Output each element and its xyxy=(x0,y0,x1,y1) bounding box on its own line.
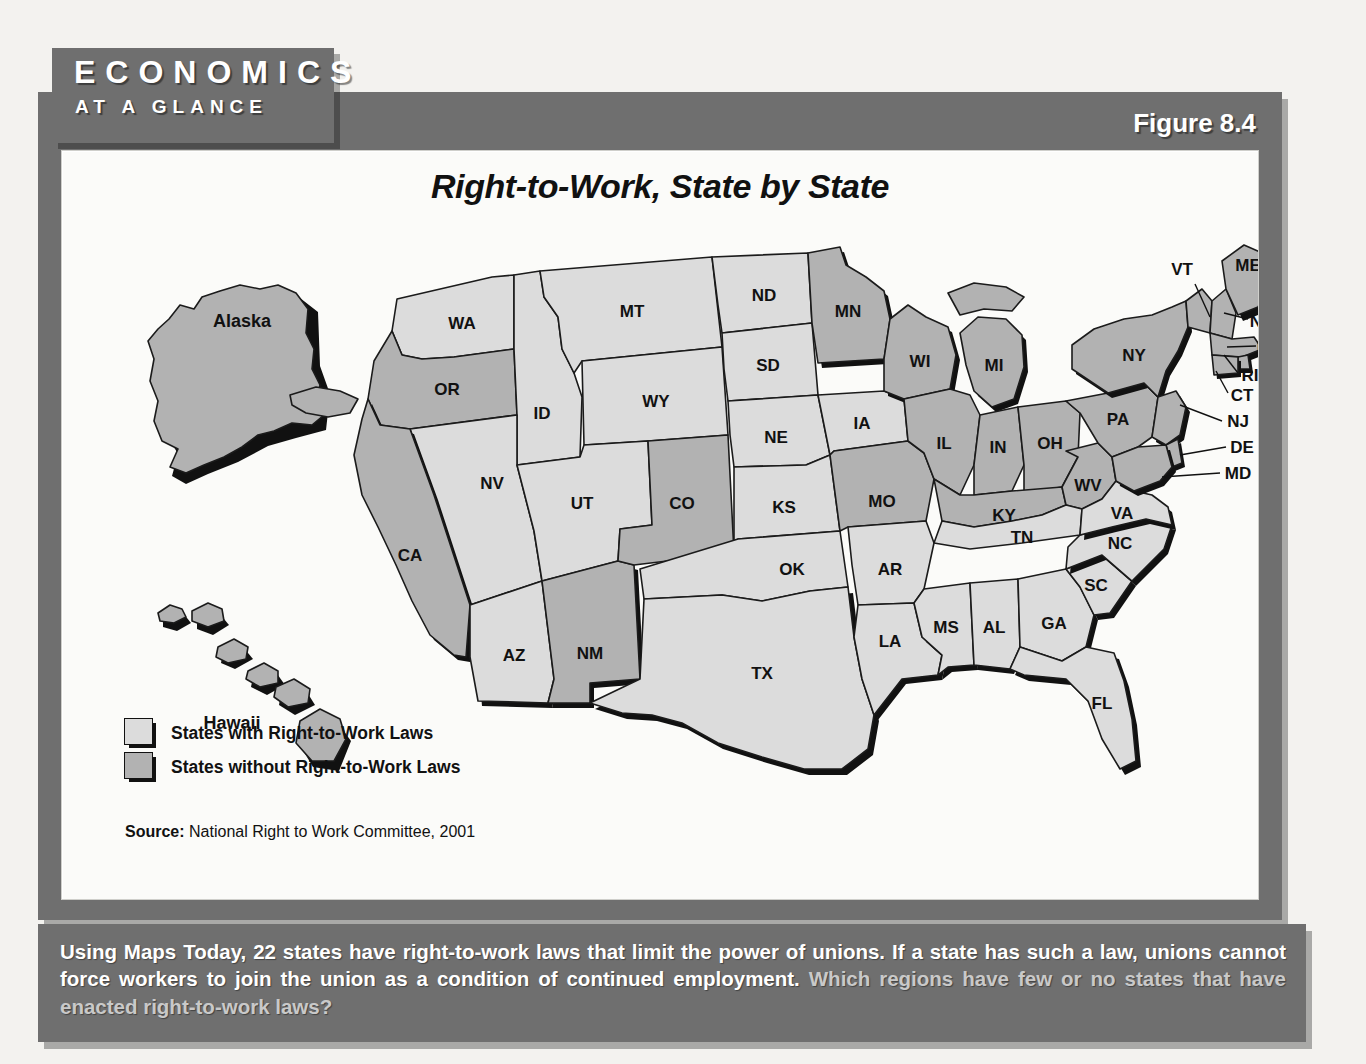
map-label-ca: CA xyxy=(398,546,423,565)
map-label-mi: MI xyxy=(985,356,1004,375)
map-label-sc: SC xyxy=(1084,576,1108,595)
map-label-tn: TN xyxy=(1011,528,1034,547)
caption-label: Using Maps xyxy=(60,940,176,963)
map-label-wv: WV xyxy=(1074,476,1102,495)
legend-swatch-with-rtw xyxy=(124,718,157,749)
map-label-il: IL xyxy=(936,434,951,453)
state-vermont xyxy=(1186,289,1212,333)
map-label-me: ME xyxy=(1235,256,1258,275)
map-label-ga: GA xyxy=(1041,614,1067,633)
map-label-de: DE xyxy=(1230,438,1254,457)
map-label-id: ID xyxy=(534,404,551,423)
map-label-ut: UT xyxy=(571,494,594,513)
map-label-ny: NY xyxy=(1122,346,1146,365)
state-northdakota: ND xyxy=(712,253,812,333)
map-label-oh: OH xyxy=(1037,434,1063,453)
legend-label-without-rtw: States without Right-to-Work Laws xyxy=(171,757,460,778)
map-label-pa: PA xyxy=(1107,410,1129,429)
map-label-la: LA xyxy=(879,632,902,651)
map-panel: Right-to-Work, State by State Alaska xyxy=(61,150,1259,900)
state-alaska: Alaska xyxy=(148,285,358,484)
map-label-vt: VT xyxy=(1171,260,1193,279)
map-label-mo: MO xyxy=(868,492,895,511)
legend-item-without-rtw: States without Right-to-Work Laws xyxy=(124,750,460,784)
map-label-wi: WI xyxy=(910,352,931,371)
map-label-co: CO xyxy=(669,494,695,513)
map-label-or: OR xyxy=(434,380,460,399)
caption-text: Using Maps Today, 22 states have right-t… xyxy=(38,924,1306,1020)
legend-swatch-without-rtw xyxy=(124,752,157,783)
map-label-ct: CT xyxy=(1231,386,1254,405)
map-label-nh: NH xyxy=(1250,312,1258,331)
state-newyork: NY xyxy=(1072,301,1192,402)
state-newjersey xyxy=(1152,391,1190,450)
map-label-tx: TX xyxy=(751,664,773,683)
legend-label-with-rtw: States with Right-to-Work Laws xyxy=(171,723,433,744)
map-title: Right-to-Work, State by State xyxy=(62,167,1258,206)
map-label-ok: OK xyxy=(779,560,805,579)
state-minnesota: MN xyxy=(808,247,894,368)
figure-root: Figure 8.4 Right-to-Work, State by State… xyxy=(0,0,1366,1064)
map-label-fl: FL xyxy=(1092,694,1113,713)
map-label-az: AZ xyxy=(503,646,526,665)
map-label-wa: WA xyxy=(448,314,475,333)
state-nebraska: NE xyxy=(728,395,830,467)
map-label-nc: NC xyxy=(1108,534,1133,553)
figure-number-label: Figure 8.4 xyxy=(1133,108,1256,139)
map-label-ma: MA xyxy=(1257,338,1258,357)
brand-title: ECONOMICS xyxy=(74,54,324,91)
map-label-sd: SD xyxy=(756,356,780,375)
map-label-nv: NV xyxy=(480,474,504,493)
map-label-nj: NJ xyxy=(1227,412,1249,431)
map-label-mn: MN xyxy=(835,302,861,321)
legend-swatch-box xyxy=(124,718,153,745)
map-label-nm: NM xyxy=(577,644,603,663)
map-label-wy: WY xyxy=(642,392,670,411)
brand-subtitle: AT A GLANCE xyxy=(75,96,325,118)
caption-bar: Using Maps Today, 22 states have right-t… xyxy=(38,924,1306,1042)
map-label-va: VA xyxy=(1111,504,1133,523)
map-label-alaska: Alaska xyxy=(213,311,272,331)
state-florida: FL xyxy=(1010,647,1141,775)
source-line: Source: National Right to Work Committee… xyxy=(125,823,475,841)
map-label-ar: AR xyxy=(878,560,903,579)
figure-frame: Figure 8.4 Right-to-Work, State by State… xyxy=(38,92,1282,920)
map-label-mt: MT xyxy=(620,302,645,321)
state-washington: WA xyxy=(392,275,514,359)
brand-tab: ECONOMICS AT A GLANCE xyxy=(52,48,334,143)
source-text: National Right to Work Committee, 2001 xyxy=(185,823,476,840)
source-label: Source: xyxy=(125,823,185,840)
map-label-md: MD xyxy=(1225,464,1251,483)
legend-item-with-rtw: States with Right-to-Work Laws xyxy=(124,716,460,750)
map-label-ks: KS xyxy=(772,498,796,517)
map-legend: States with Right-to-Work Laws States wi… xyxy=(124,716,460,784)
state-indiana: IN xyxy=(974,407,1024,495)
map-label-in: IN xyxy=(990,438,1007,457)
state-wyoming: WY xyxy=(582,347,728,445)
map-label-ia: IA xyxy=(854,414,871,433)
state-southdakota: SD xyxy=(722,323,818,401)
map-label-nd: ND xyxy=(752,286,777,305)
legend-swatch-box xyxy=(124,752,153,779)
map-label-ne: NE xyxy=(764,428,788,447)
state-missouri: MO xyxy=(830,441,934,531)
map-label-ms: MS xyxy=(933,618,959,637)
map-label-al: AL xyxy=(983,618,1006,637)
map-label-ri: RI xyxy=(1242,366,1259,385)
